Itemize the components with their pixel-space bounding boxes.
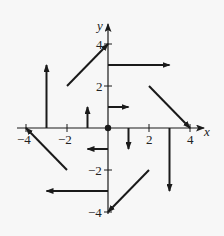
y-tick-label: −4 <box>88 205 102 220</box>
x-tick-label: 4 <box>187 132 194 147</box>
x-tick-label: 2 <box>146 132 153 147</box>
x-axis-label: x <box>203 124 210 139</box>
x-tick-label: −4 <box>17 132 31 147</box>
y-tick-label: −2 <box>88 163 102 178</box>
y-tick-label: 2 <box>96 79 103 94</box>
axes <box>17 24 204 214</box>
plot-canvas: x y −4 −2 2 4 4 2 −2 −4 <box>0 0 224 236</box>
vector-field-diagram: x y −4 −2 2 4 4 2 −2 −4 <box>0 0 224 236</box>
origin-marker <box>105 125 111 131</box>
vector-arrow <box>149 86 190 128</box>
vector-arrow <box>108 170 149 212</box>
x-tick-label: −2 <box>58 132 72 147</box>
y-axis-label: y <box>95 18 103 33</box>
